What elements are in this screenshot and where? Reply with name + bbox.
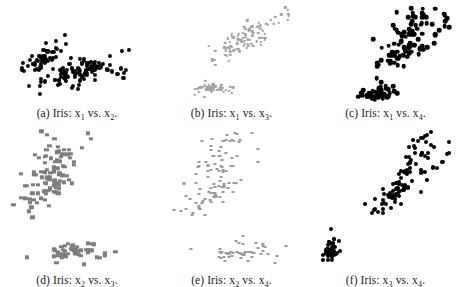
caption-c-end: . xyxy=(423,107,426,119)
data-point xyxy=(258,37,261,39)
data-point xyxy=(407,145,411,149)
data-point xyxy=(423,154,427,158)
data-point xyxy=(414,162,418,166)
data-point xyxy=(402,46,407,51)
scatter-plot-c xyxy=(309,0,462,105)
data-point xyxy=(420,44,425,49)
data-point xyxy=(27,84,31,88)
data-point xyxy=(239,252,242,254)
data-point xyxy=(419,171,423,175)
data-point xyxy=(407,27,412,32)
caption-e-end: . xyxy=(269,274,272,286)
data-point xyxy=(124,67,128,71)
data-point xyxy=(197,161,200,163)
data-point xyxy=(288,14,291,16)
data-point xyxy=(226,187,229,189)
data-point xyxy=(51,67,55,71)
data-point xyxy=(248,27,251,29)
data-point xyxy=(222,185,225,187)
data-point xyxy=(437,28,442,33)
data-point xyxy=(329,227,333,231)
data-point xyxy=(230,33,233,35)
data-point xyxy=(442,12,447,17)
data-point xyxy=(228,182,231,184)
data-point xyxy=(332,237,336,241)
data-point xyxy=(45,133,49,136)
data-point xyxy=(219,155,222,157)
data-point xyxy=(265,23,268,25)
data-point xyxy=(61,164,65,167)
data-point xyxy=(246,251,249,253)
data-point xyxy=(218,170,221,172)
data-point xyxy=(239,51,242,53)
panel-a: (a) Iris: x1 vs. x2. xyxy=(0,0,154,120)
data-point xyxy=(375,76,380,81)
data-point xyxy=(47,204,51,207)
data-point xyxy=(43,161,47,164)
data-point xyxy=(380,46,385,51)
data-point xyxy=(406,15,411,20)
caption-b-vs: vs. xyxy=(240,107,259,119)
data-point xyxy=(377,93,382,98)
data-point xyxy=(244,33,247,35)
data-point xyxy=(213,59,216,61)
caption-b: (b) Iris: x1 vs. x3. xyxy=(154,105,309,120)
data-point xyxy=(447,140,451,144)
data-point xyxy=(56,191,60,194)
data-point xyxy=(213,186,216,188)
data-point xyxy=(231,157,234,159)
data-point xyxy=(229,54,232,56)
data-point xyxy=(210,138,213,140)
data-point xyxy=(60,173,64,176)
data-point xyxy=(242,243,245,245)
data-point xyxy=(59,49,63,53)
caption-b-end: . xyxy=(269,107,272,119)
data-point xyxy=(330,258,334,262)
data-point xyxy=(231,92,234,94)
data-point xyxy=(284,245,287,247)
data-point xyxy=(406,50,411,55)
data-point xyxy=(11,203,15,206)
data-point xyxy=(31,171,35,174)
data-point xyxy=(222,171,225,173)
data-point xyxy=(411,32,416,37)
data-point xyxy=(393,197,397,201)
data-point xyxy=(201,87,204,89)
data-point xyxy=(57,173,61,176)
data-point xyxy=(223,140,226,142)
data-point xyxy=(43,181,47,184)
data-point xyxy=(219,86,222,88)
data-point xyxy=(447,151,451,155)
data-point xyxy=(387,43,392,48)
data-point xyxy=(238,141,241,143)
data-point xyxy=(410,179,414,183)
data-point xyxy=(53,178,57,181)
caption-c: (c) Iris: x1 vs. x4. xyxy=(309,105,462,120)
data-point xyxy=(228,60,231,62)
data-point xyxy=(225,49,228,51)
data-point xyxy=(277,21,280,23)
data-point xyxy=(203,96,206,98)
data-point xyxy=(56,145,60,148)
data-point xyxy=(70,247,74,250)
data-point xyxy=(248,39,251,41)
data-point xyxy=(82,77,86,81)
data-point xyxy=(424,21,429,26)
data-point xyxy=(387,91,392,96)
data-point xyxy=(197,207,200,209)
data-point xyxy=(259,41,262,43)
data-point xyxy=(72,163,76,166)
data-point xyxy=(224,53,227,55)
data-point xyxy=(229,86,232,88)
data-point xyxy=(394,181,398,185)
data-point xyxy=(231,255,234,257)
data-point xyxy=(420,6,425,11)
data-point xyxy=(108,54,112,58)
data-point xyxy=(69,56,73,60)
data-point xyxy=(416,139,420,143)
data-point xyxy=(227,256,230,258)
data-point xyxy=(218,150,221,152)
data-point xyxy=(213,183,216,185)
data-point xyxy=(244,28,247,30)
data-point xyxy=(39,130,43,133)
